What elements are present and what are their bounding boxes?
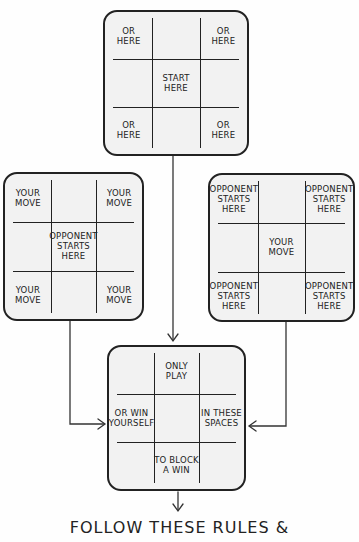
cell-middle-right: [305, 223, 353, 271]
cell-bottom-right: YOUR MOVE: [96, 271, 142, 319]
cell-middle-right: IN THESE SPACES: [199, 394, 244, 441]
cell-bottom-center: [51, 271, 97, 319]
cell-top-right: [199, 347, 244, 394]
cell-bottom-center: [152, 107, 199, 154]
cell-bottom-left: OR HERE: [105, 107, 152, 154]
cell-bottom-center: [258, 272, 306, 320]
cell-top-left: OPPONENT STARTS HERE: [210, 175, 258, 223]
cell-middle-right: [200, 59, 247, 106]
cell-top-left: OR HERE: [105, 12, 152, 59]
cell-middle-left: [5, 222, 51, 270]
footer-caption: FOLLOW THESE RULES &: [0, 518, 359, 537]
cell-center: START HERE: [152, 59, 199, 106]
cell-bottom-center: TO BLOCK A WIN: [154, 442, 199, 489]
board-opponent-center: YOUR MOVE YOUR MOVE OPPONENT STARTS HERE…: [3, 172, 144, 321]
cell-bottom-right: [199, 442, 244, 489]
cell-top-center: [51, 174, 97, 222]
board-opponent-corners: OPPONENT STARTS HERE OPPONENT STARTS HER…: [208, 173, 355, 322]
cell-top-center: [258, 175, 306, 223]
cell-bottom-right: OR HERE: [200, 107, 247, 154]
cell-center: YOUR MOVE: [258, 223, 306, 271]
board-start: OR HERE OR HERE START HERE OR HERE OR HE…: [103, 10, 249, 156]
cell-top-center: ONLY PLAY: [154, 347, 199, 394]
cell-bottom-left: YOUR MOVE: [5, 271, 51, 319]
cell-top-right: OR HERE: [200, 12, 247, 59]
cell-bottom-right: OPPONENT STARTS HERE: [305, 272, 353, 320]
cell-top-right: YOUR MOVE: [96, 174, 142, 222]
cell-middle-left: OR WIN YOURSELF: [109, 394, 154, 441]
board-rules: ONLY PLAY OR WIN YOURSELF IN THESE SPACE…: [107, 345, 246, 491]
cell-top-left: [109, 347, 154, 394]
cell-top-right: OPPONENT STARTS HERE: [305, 175, 353, 223]
cell-top-left: YOUR MOVE: [5, 174, 51, 222]
cell-center: OPPONENT STARTS HERE: [51, 222, 97, 270]
cell-middle-left: [105, 59, 152, 106]
cell-middle-right: [96, 222, 142, 270]
cell-middle-left: [210, 223, 258, 271]
cell-top-center: [152, 12, 199, 59]
cell-bottom-left: OPPONENT STARTS HERE: [210, 272, 258, 320]
cell-bottom-left: [109, 442, 154, 489]
cell-center: [154, 394, 199, 441]
